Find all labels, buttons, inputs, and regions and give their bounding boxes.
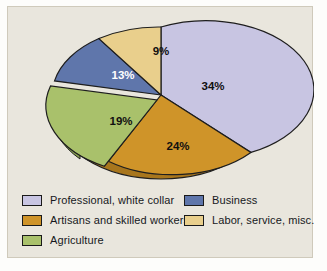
legend-label-agriculture: Agriculture [50,234,104,246]
legend-item-professional[interactable]: Professional, white collar [22,193,174,207]
legend-label-labor: Labor, service, misc. [212,214,314,226]
pie-label-artisans: 24% [166,140,189,152]
legend-label-professional: Professional, white collar [50,194,174,206]
pie-label-business: 13% [111,69,134,81]
legend-item-labor[interactable]: Labor, service, misc. [184,213,314,227]
pie-label-labor: 9% [153,45,170,57]
legend-swatch-professional [22,195,42,206]
legend-label-artisans: Artisans and skilled workers [50,214,189,226]
pie-label-agriculture: 19% [109,115,132,127]
legend-swatch-business [184,195,204,206]
legend-item-business[interactable]: Business [184,193,257,207]
legend-swatch-artisans [22,215,42,226]
legend-swatch-labor [184,215,204,226]
legend-swatch-agriculture [22,235,42,246]
legend-label-business: Business [212,194,257,206]
chart-figure: 34% 24% 19% 13% 9% Professional, white c… [7,6,313,258]
legend-item-agriculture[interactable]: Agriculture [22,233,104,247]
chart-legend: Professional, white collar Artisans and … [18,193,308,255]
pie-label-professional: 34% [201,80,224,92]
legend-item-artisans[interactable]: Artisans and skilled workers [22,213,189,227]
